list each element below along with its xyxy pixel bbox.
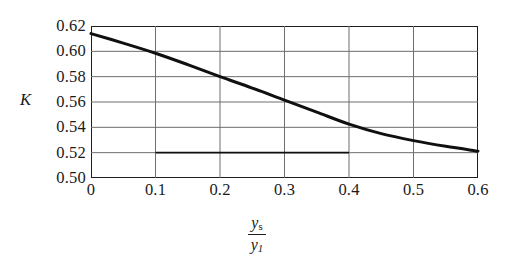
x-axis-label: ys y1 <box>0 214 514 255</box>
y-tick-label: 0.62 <box>28 18 86 35</box>
x-tick-label: 0.5 <box>384 182 444 199</box>
y-tick-label: 0.58 <box>28 69 86 86</box>
x-axis-denominator-subscript: 1 <box>258 243 263 255</box>
x-axis-fraction-denominator: y1 <box>248 235 267 255</box>
x-tick-label: 0.1 <box>126 182 186 199</box>
y-tick-label: 0.54 <box>28 119 86 136</box>
x-tick-label: 0.2 <box>190 182 250 199</box>
x-axis-numerator-subscript: s <box>258 220 262 232</box>
y-tick-label: 0.60 <box>28 43 86 60</box>
x-axis-fraction-numerator: ys <box>248 214 267 235</box>
x-tick-label: 0.6 <box>448 182 508 199</box>
x-axis-denominator-symbol: y <box>251 236 258 253</box>
x-tick-label: 0 <box>61 182 121 199</box>
x-axis-fraction: ys y1 <box>248 214 267 255</box>
x-tick-label: 0.3 <box>255 182 315 199</box>
plot-area <box>91 26 478 178</box>
y-axis-label: K <box>20 92 31 109</box>
x-tick-label: 0.4 <box>319 182 379 199</box>
y-tick-label: 0.52 <box>28 145 86 162</box>
chart-figure: 0.620.600.580.560.540.520.50 00.10.20.30… <box>0 0 514 280</box>
y-tick-label: 0.56 <box>28 94 86 111</box>
